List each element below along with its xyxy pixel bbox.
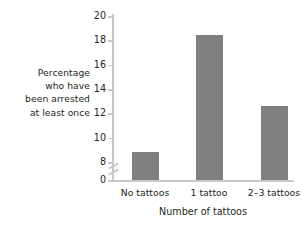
y-tick-mark bbox=[108, 65, 112, 67]
y-tick-mark bbox=[108, 162, 112, 164]
y-axis-title-line-1: Percentage bbox=[4, 66, 90, 79]
y-tick-label: 14 bbox=[94, 84, 106, 94]
y-tick-mark bbox=[108, 89, 112, 91]
x-tick-label-0: No tattoos bbox=[121, 187, 169, 198]
y-axis-title-line-3: been arrested bbox=[4, 92, 90, 105]
y-tick-label: 10 bbox=[94, 133, 106, 143]
x-axis-title: Number of tattoos bbox=[112, 206, 294, 217]
bar-2 bbox=[261, 106, 288, 180]
y-tick-mark bbox=[108, 40, 112, 42]
plot-area: 08101214161820 No tattoos1 tattoo2–3 tat… bbox=[112, 14, 294, 182]
y-axis-line bbox=[112, 14, 114, 182]
y-axis-title-line-2: who have bbox=[4, 79, 90, 92]
y-tick-label: 18 bbox=[94, 36, 106, 46]
y-tick-label: 20 bbox=[94, 11, 106, 21]
y-axis-title-line-4: at least once bbox=[4, 106, 90, 119]
x-tick-label-2: 2–3 tattoos bbox=[248, 187, 300, 198]
y-tick-label: 8 bbox=[100, 157, 106, 167]
bar-1 bbox=[196, 35, 223, 180]
y-tick-label: 12 bbox=[94, 109, 106, 119]
bar-chart-figure: Percentage who have been arrested at lea… bbox=[0, 0, 303, 228]
y-tick-mark bbox=[108, 113, 112, 115]
y-tick-mark bbox=[108, 138, 112, 140]
bar-0 bbox=[132, 152, 159, 180]
y-tick-mark bbox=[108, 180, 112, 182]
y-tick-mark bbox=[108, 16, 112, 18]
x-axis-line bbox=[112, 180, 294, 182]
y-tick-label: 0 bbox=[100, 175, 106, 185]
y-tick-label: 16 bbox=[94, 60, 106, 70]
y-axis-title: Percentage who have been arrested at lea… bbox=[4, 66, 90, 119]
x-tick-label-1: 1 tattoo bbox=[191, 187, 228, 198]
